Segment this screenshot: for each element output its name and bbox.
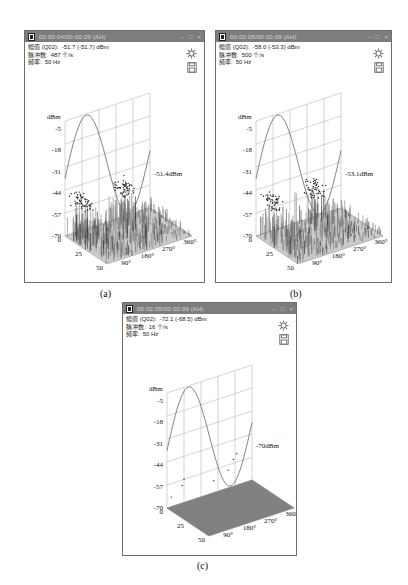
amplitude-row: 幅值 (Q02):-51.7 (-51.7) dBm	[28, 44, 112, 52]
pulse-value: 16 个/s	[149, 324, 168, 330]
prpd-3d-chart: dBm-5-18-31-44-57-700255090°180°270°360°…	[25, 86, 204, 279]
maximize-button[interactable]: □	[281, 306, 285, 312]
y-tick-label: -5	[55, 125, 61, 133]
close-button[interactable]: ×	[197, 34, 201, 40]
depth-tick-label: 25	[75, 250, 83, 258]
phase-tick-label: 90°	[312, 259, 322, 267]
peak-level-annotation: -53.1dBm	[345, 170, 374, 178]
maximize-button[interactable]: □	[189, 34, 193, 40]
prpd-3d-chart: dBm-5-18-31-44-57-700255090°180°270°360°…	[123, 358, 296, 552]
depth-tick-label: 50	[198, 536, 206, 544]
pulse-row: 脉冲数:487 个/s	[28, 52, 112, 60]
depth-tick-label: 25	[177, 522, 185, 530]
title-bar[interactable]: 00:02:05/00:00:09 (AH) – □ ×	[123, 303, 296, 314]
y-tick-label: -31	[154, 440, 164, 448]
amplitude-label: 幅值 (Q02):	[219, 44, 250, 50]
phase-tick-label: 360°	[285, 510, 296, 518]
pulse-label: 脉冲数:	[126, 324, 146, 330]
minimize-button[interactable]: –	[181, 34, 184, 40]
y-tick-label: -57	[52, 211, 62, 219]
amplitude-label: 幅值 (Q02):	[126, 316, 157, 322]
depth-tick-label: 50	[287, 264, 295, 272]
phase-tick-label: 360°	[374, 238, 388, 246]
window-title: 00:02:05/00:00:09 (AH)	[137, 306, 273, 312]
prpd-window-c: 00:02:05/00:00:09 (AH) – □ × 幅值 (Q02):-7…	[122, 302, 297, 556]
gear-icon[interactable]	[186, 48, 197, 59]
amplitude-value: -51.7 (-51.7) dBm	[62, 44, 109, 50]
y-axis-label: dBm	[238, 113, 252, 121]
minimize-button[interactable]: –	[368, 34, 371, 40]
y-axis-label: dBm	[47, 113, 61, 121]
phase-tick-label: 360°	[183, 238, 197, 246]
save-icon[interactable]	[374, 62, 384, 73]
frequency-value: 50 Hz	[236, 59, 252, 65]
phase-tick-label: 270°	[162, 245, 176, 253]
gear-icon[interactable]	[278, 320, 289, 331]
amplitude-row: 幅值 (Q02):-58.0 (-53.3) dBm	[219, 44, 303, 52]
pulse-value: 500 个/s	[242, 52, 264, 58]
app-icon	[219, 33, 226, 41]
frequency-row: 频率:50 Hz	[219, 59, 303, 67]
depth-tick-label: 0	[58, 236, 62, 244]
save-icon[interactable]	[187, 62, 197, 73]
figure-caption-a: (a)	[100, 288, 111, 299]
maximize-button[interactable]: □	[376, 34, 380, 40]
depth-tick-label: 50	[96, 264, 104, 272]
frequency-label: 频率:	[219, 59, 233, 65]
pulse-label: 脉冲数:	[219, 52, 239, 58]
app-icon	[28, 33, 35, 41]
gear-icon[interactable]	[373, 48, 384, 59]
frequency-row: 频率:50 Hz	[126, 331, 210, 339]
phase-tick-label: 180°	[141, 252, 155, 260]
pulse-value: 487 个/s	[51, 52, 73, 58]
amplitude-value: -72.1 (-68.5) dBm	[160, 316, 207, 322]
prpd-3d-chart: dBm-5-18-31-44-57-700255090°180°270°360°…	[216, 86, 391, 279]
title-bar[interactable]: 00:00:04/00:00:09 (AH) – □ ×	[25, 31, 204, 42]
y-axis-label: dBm	[149, 385, 163, 393]
title-bar[interactable]: 00:00:05/00:00:09 (AH) – □ ×	[216, 31, 391, 42]
y-tick-label: -57	[243, 211, 253, 219]
phase-tick-label: 90°	[121, 259, 131, 267]
y-tick-label: -57	[154, 483, 164, 491]
depth-tick-label: 25	[266, 250, 274, 258]
pulse-label: 脉冲数:	[28, 52, 48, 58]
y-tick-label: -5	[157, 397, 163, 405]
y-tick-label: -18	[52, 146, 62, 154]
y-tick-label: -18	[243, 146, 253, 154]
y-tick-label: -44	[52, 189, 62, 197]
y-tick-label: -44	[154, 461, 164, 469]
phase-tick-label: 90°	[223, 531, 233, 539]
depth-tick-label: 0	[249, 236, 253, 244]
figure-caption-c: (c)	[197, 560, 208, 571]
prpd-window-a: 00:00:04/00:00:09 (AH) – □ × 幅值 (Q02):-5…	[24, 30, 205, 283]
readout-panel: 幅值 (Q02):-51.7 (-51.7) dBm 脉冲数:487 个/s 频…	[28, 44, 112, 67]
y-tick-label: -31	[52, 168, 62, 176]
window-title: 00:00:04/00:00:09 (AH)	[39, 34, 181, 40]
y-tick-label: -31	[243, 168, 253, 176]
window-title: 00:00:05/00:00:09 (AH)	[230, 34, 368, 40]
phase-tick-label: 180°	[332, 252, 346, 260]
pulse-row: 脉冲数:500 个/s	[219, 52, 303, 60]
frequency-label: 频率:	[28, 59, 42, 65]
frequency-label: 频率:	[126, 331, 140, 337]
frequency-value: 50 Hz	[45, 59, 61, 65]
figure-caption-b: (b)	[290, 288, 302, 299]
depth-tick-label: 0	[160, 508, 164, 516]
y-tick-label: -5	[246, 125, 252, 133]
amplitude-label: 幅值 (Q02):	[28, 44, 59, 50]
prpd-window-b: 00:00:05/00:00:09 (AH) – □ × 幅值 (Q02):-5…	[215, 30, 392, 283]
minimize-button[interactable]: –	[273, 306, 276, 312]
app-icon	[126, 305, 133, 313]
close-button[interactable]: ×	[384, 34, 388, 40]
pulse-row: 脉冲数:16 个/s	[126, 324, 210, 332]
phase-tick-label: 180°	[243, 524, 257, 532]
close-button[interactable]: ×	[289, 306, 293, 312]
readout-panel: 幅值 (Q02):-72.1 (-68.5) dBm 脉冲数:16 个/s 频率…	[126, 316, 210, 339]
amplitude-row: 幅值 (Q02):-72.1 (-68.5) dBm	[126, 316, 210, 324]
save-icon[interactable]	[279, 334, 289, 345]
peak-level-annotation: -51.4dBm	[154, 170, 183, 178]
frequency-value: 50 Hz	[143, 331, 159, 337]
peak-level-annotation: -70dBm	[256, 442, 280, 450]
y-tick-label: -44	[243, 189, 253, 197]
phase-tick-label: 270°	[353, 245, 367, 253]
